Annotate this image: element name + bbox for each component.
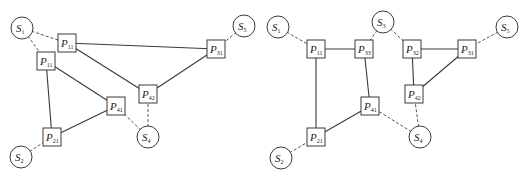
right-processor-node-P42: P42 — [405, 85, 423, 103]
right-processor-node-P32: P32 — [403, 40, 421, 58]
right-processor-node-P11: P11 — [307, 40, 325, 58]
right-source-node-S5: S5 — [496, 16, 518, 38]
left-processor-node-P11b: P11 — [37, 52, 55, 70]
left-solid-edge-P11b-P21 — [46, 61, 52, 137]
left-processor-node-P42: P42 — [139, 85, 157, 103]
source-circle — [11, 17, 33, 39]
right-processor-node-P31: P31 — [458, 40, 476, 58]
left-processor-node-P21: P21 — [43, 128, 61, 146]
right-source-node-S1: S1 — [267, 16, 289, 38]
right-processor-node-P41: P41 — [361, 97, 379, 115]
right-processor-node-P21: P21 — [307, 128, 325, 146]
source-circle — [233, 15, 255, 37]
left-solid-edge-P42-P31 — [148, 49, 216, 94]
left-processor-node-P41: P41 — [107, 97, 125, 115]
left-source-node-S5: S5 — [233, 15, 255, 37]
left-processor-node-P11a: P11 — [58, 34, 76, 52]
right-processor-node-P33: P33 — [355, 40, 373, 58]
left-source-node-S4: S4 — [137, 126, 159, 148]
left-solid-edge-P21-P41 — [52, 106, 116, 137]
right-source-node-S4: S4 — [409, 126, 431, 148]
left-solid-edge-P11a-P42 — [67, 43, 148, 94]
source-circle — [496, 16, 518, 38]
right-source-node-S2: S2 — [270, 147, 292, 169]
source-circle — [409, 126, 431, 148]
left-diagram: S1S5S4S2P11P11P31P42P41P21 — [10, 15, 255, 168]
left-solid-edge-P11a-P31 — [67, 43, 216, 49]
right-diagram: S1S3S5S4S2P11P33P32P31P42P41P21 — [267, 11, 518, 169]
network-diagrams: S1S5S4S2P11P11P31P42P41P21S1S3S5S4S2P11P… — [0, 0, 525, 183]
source-circle — [267, 16, 289, 38]
left-source-node-S1: S1 — [11, 17, 33, 39]
left-source-node-S2: S2 — [10, 146, 32, 168]
right-source-node-S3: S3 — [372, 11, 394, 33]
source-circle — [137, 126, 159, 148]
left-processor-node-P31: P31 — [207, 40, 225, 58]
source-circle — [10, 146, 32, 168]
source-circle — [270, 147, 292, 169]
source-circle — [372, 11, 394, 33]
